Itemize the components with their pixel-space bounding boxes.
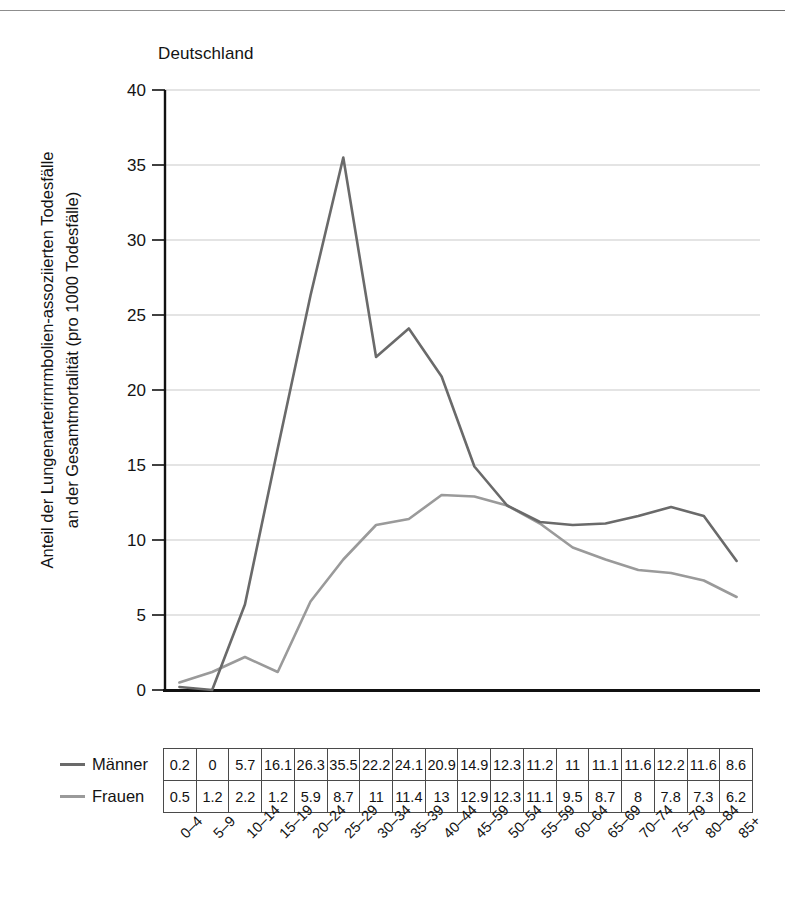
legend-label-frauen: Frauen bbox=[92, 787, 144, 806]
legend-label-maenner: Männer bbox=[92, 755, 148, 774]
table-cell: 26.3 bbox=[294, 749, 327, 781]
y-axis-tick-label: 10 bbox=[127, 531, 146, 550]
chart-legend: Männer Frauen bbox=[60, 748, 163, 812]
legend-item-frauen: Frauen bbox=[60, 780, 163, 812]
chart-plot-area: 4035302520151050 bbox=[0, 0, 785, 760]
series-line-maenner bbox=[179, 158, 736, 691]
y-axis-tick-label: 35 bbox=[127, 156, 146, 175]
y-axis-tick-label: 0 bbox=[137, 681, 146, 700]
table-cell: 0 bbox=[196, 749, 229, 781]
table-cell: 11.1 bbox=[589, 749, 622, 781]
table-cell: 11 bbox=[556, 749, 589, 781]
table-cell: 16.1 bbox=[262, 749, 295, 781]
table-cell: 11.6 bbox=[622, 749, 655, 781]
y-axis-tick-label: 20 bbox=[127, 381, 146, 400]
y-axis-tick-label: 5 bbox=[137, 606, 146, 625]
table-cell: 11.6 bbox=[687, 749, 720, 781]
legend-item-maenner: Männer bbox=[60, 748, 163, 780]
y-axis-tick-label: 15 bbox=[127, 456, 146, 475]
chart-svg: 4035302520151050 bbox=[0, 0, 785, 760]
table-cell: 12.3 bbox=[491, 749, 524, 781]
legend-line-swatch-frauen bbox=[60, 795, 85, 798]
table-cell: 20.9 bbox=[425, 749, 458, 781]
table-cell: 12.2 bbox=[654, 749, 687, 781]
table-cell: 35.5 bbox=[327, 749, 360, 781]
legend-line-swatch-maenner bbox=[60, 763, 85, 766]
y-axis-tick-label: 30 bbox=[127, 231, 146, 250]
gridlines bbox=[165, 90, 760, 615]
y-axis-tick-labels: 4035302520151050 bbox=[127, 81, 146, 700]
table-cell: 0.5 bbox=[164, 781, 197, 813]
table-cell: 14.9 bbox=[458, 749, 491, 781]
table-row: 0.205.716.126.335.522.224.120.914.912.31… bbox=[164, 749, 753, 781]
x-axis-category-labels: 0–45–910–1415–1920–2425–2930–3435–3940–4… bbox=[163, 812, 753, 909]
table-cell: 0.2 bbox=[164, 749, 197, 781]
table-cell: 11.2 bbox=[523, 749, 556, 781]
y-axis-ticks bbox=[152, 90, 165, 690]
table-cell: 24.1 bbox=[393, 749, 426, 781]
y-axis-tick-label: 40 bbox=[127, 81, 146, 100]
y-axis-tick-label: 25 bbox=[127, 306, 146, 325]
table-cell: 8.6 bbox=[720, 749, 753, 781]
table-cell: 22.2 bbox=[360, 749, 393, 781]
table-cell: 5.7 bbox=[229, 749, 262, 781]
